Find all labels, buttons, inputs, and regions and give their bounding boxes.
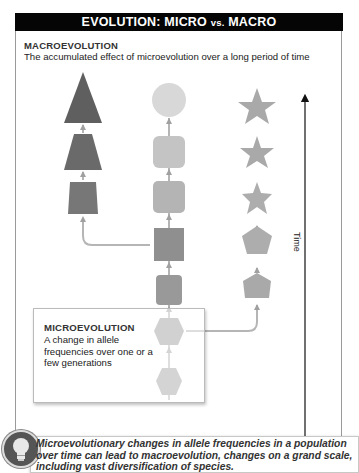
trapezoid-shape-2	[68, 182, 98, 214]
left-lineage	[64, 72, 102, 214]
lightbulb-icon	[2, 430, 40, 468]
pentagon-shape-2	[243, 273, 271, 298]
trapezoid-shape	[64, 134, 102, 170]
rounded-square-shape-3	[156, 275, 182, 305]
time-axis-label: Time	[292, 232, 302, 252]
microevolution-heading: MICROEVOLUTION	[44, 322, 135, 333]
star-shape-3	[242, 182, 272, 214]
star-shape	[238, 88, 276, 124]
rounded-square-shape-2	[153, 181, 185, 213]
star-shape-2	[240, 136, 274, 168]
circle-shape	[152, 83, 186, 117]
pentagon-shape	[242, 226, 272, 254]
microevolution-description: A change in allele frequencies over one …	[44, 334, 154, 369]
triangle-shape	[64, 72, 102, 123]
right-lineage	[238, 88, 276, 298]
square-shape	[154, 228, 184, 261]
callout-text: Microevolutionary changes in allele freq…	[36, 438, 358, 473]
rounded-square-shape	[153, 136, 185, 168]
